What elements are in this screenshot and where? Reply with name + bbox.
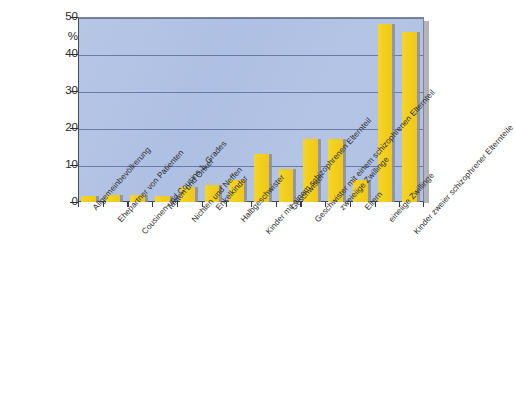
y-tick-mark — [70, 54, 78, 55]
bar[interactable] — [378, 24, 393, 202]
bar-slot — [325, 17, 350, 202]
bar-slot — [251, 17, 276, 202]
y-tick-mark — [70, 91, 78, 92]
y-tick-mark — [70, 17, 78, 18]
y-tick-mark — [70, 128, 78, 129]
x-axis-labels: AllgemeinbevölkerungEhepartner von Patie… — [0, 202, 438, 352]
bar-slot — [78, 17, 103, 202]
y-tick-mark — [70, 165, 78, 166]
y-axis-unit-label: % — [22, 30, 78, 42]
